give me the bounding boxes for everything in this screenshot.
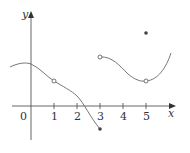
tick-label-5: 5 [143, 110, 150, 123]
closed-point [98, 127, 102, 131]
tick-label-2: 2 [74, 110, 81, 123]
function-plot: y x 0 1 2 3 4 5 [0, 0, 190, 153]
closed-point [144, 31, 148, 35]
curve-piece-2 [100, 53, 171, 81]
tick-label-4: 4 [120, 110, 127, 123]
open-point [52, 79, 56, 83]
graph: y x 0 1 2 3 4 5 [0, 0, 190, 153]
tick-label-3: 3 [97, 110, 104, 123]
y-arrow-icon [28, 11, 34, 18]
open-point [144, 79, 148, 83]
origin-label: 0 [20, 110, 27, 123]
open-point [98, 55, 102, 59]
tick-label-1: 1 [51, 110, 58, 123]
y-axis-label: y [21, 8, 29, 21]
x-axis-label: x [168, 107, 175, 120]
